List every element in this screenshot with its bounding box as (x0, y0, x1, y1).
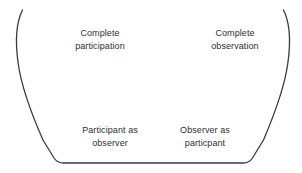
continuum-diagram: Complete participation Complete observat… (0, 0, 302, 173)
label-complete-participation: Complete participation (40, 27, 160, 52)
label-observer-as-participant-line2: particpant (145, 137, 265, 150)
label-complete-participation-line2: participation (40, 40, 160, 53)
label-complete-observation-line1: Complete (175, 27, 295, 40)
label-complete-participation-line1: Complete (40, 27, 160, 40)
label-observer-as-participant-line1: Observer as (145, 124, 265, 137)
label-complete-observation: Complete observation (175, 27, 295, 52)
label-complete-observation-line2: observation (175, 40, 295, 53)
label-observer-as-participant: Observer as particpant (145, 124, 265, 149)
